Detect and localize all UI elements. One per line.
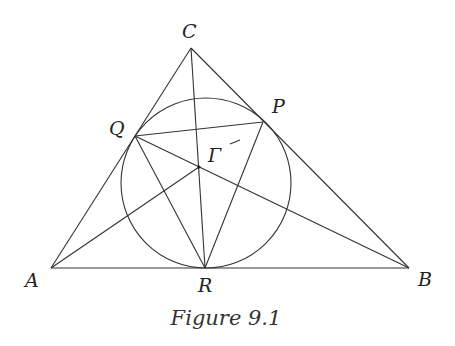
segment-qp: [135, 122, 263, 136]
label-a: A: [23, 269, 39, 291]
side-ac: [51, 48, 191, 268]
cevian-cr: [191, 48, 205, 268]
gamma-leader: [230, 140, 240, 144]
figure-caption: Figure 9.1: [170, 306, 282, 330]
label-c: C: [182, 20, 197, 42]
figure-9-1: C A B R Q P Γ Figure 9.1: [0, 0, 455, 346]
label-q: Q: [109, 117, 125, 139]
cevian-bq: [135, 136, 409, 268]
cevian-ap: [51, 167, 199, 268]
triangle-incircle-diagram: C A B R Q P Γ Figure 9.1: [0, 0, 455, 346]
label-b: B: [417, 268, 432, 290]
segment-qr: [135, 136, 205, 268]
label-p: P: [271, 95, 286, 117]
label-r: R: [197, 274, 212, 296]
gergonne-point: [197, 165, 200, 168]
label-gamma: Γ: [207, 144, 222, 166]
side-bc: [191, 48, 409, 268]
